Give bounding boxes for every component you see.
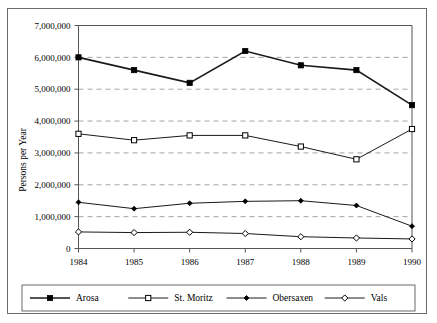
data-point-marker [298, 198, 303, 203]
series-st-moritz [76, 126, 415, 161]
x-tick-label: 1989 [347, 257, 366, 267]
data-point-marker [409, 126, 414, 131]
data-point-marker [131, 138, 136, 143]
data-point-marker [187, 201, 192, 206]
plot-gridlines [79, 26, 413, 217]
chart-figure: 01,000,0002,000,0003,000,0004,000,0005,0… [0, 0, 437, 323]
legend: ArosaSt. MoritzObersaxenVals [22, 285, 415, 311]
data-point-marker [409, 236, 415, 242]
data-point-marker [132, 206, 137, 211]
y-tick-label: 6,000,000 [35, 53, 72, 63]
data-point-marker [76, 131, 81, 136]
y-tick-label: 3,000,000 [35, 148, 72, 158]
line-chart: 01,000,0002,000,0003,000,0004,000,0005,0… [0, 0, 437, 323]
data-point-marker [354, 157, 359, 162]
data-point-marker [243, 48, 248, 53]
data-point-marker [243, 199, 248, 204]
y-tick-label: 1,000,000 [35, 212, 72, 222]
data-series-group [75, 48, 415, 242]
data-point-marker [354, 203, 359, 208]
series-obersaxen [76, 198, 415, 228]
legend-label: Vals [371, 293, 388, 303]
series-line [79, 201, 413, 226]
y-axis-title: Persons per Year [18, 127, 28, 191]
data-point-marker [242, 230, 248, 236]
x-axis-ticks [79, 249, 413, 253]
data-point-marker [76, 200, 81, 205]
x-tick-label: 1984 [70, 257, 89, 267]
x-tick-label: 1987 [236, 257, 255, 267]
series-line [79, 51, 413, 105]
data-point-marker [298, 144, 303, 149]
data-point-marker [76, 55, 81, 60]
x-axis-tick-labels: 1984198519861987198819891990 [70, 257, 422, 267]
data-point-marker [354, 68, 359, 73]
y-tick-label: 0 [66, 244, 71, 254]
x-tick-label: 1985 [125, 257, 144, 267]
legend-label: St. Moritz [174, 293, 213, 303]
data-point-marker [410, 224, 415, 229]
series-vals [75, 229, 415, 242]
data-point-marker [298, 234, 304, 240]
data-point-marker [75, 229, 81, 235]
y-axis-tick-labels: 01,000,0002,000,0003,000,0004,000,0005,0… [35, 21, 72, 254]
y-tick-label: 2,000,000 [35, 180, 72, 190]
data-point-marker [187, 133, 192, 138]
legend-label: Arosa [76, 293, 99, 303]
data-point-marker [243, 133, 248, 138]
data-point-marker [187, 80, 192, 85]
y-tick-label: 7,000,000 [35, 21, 72, 31]
data-point-marker [146, 295, 151, 300]
data-point-marker [47, 295, 52, 300]
x-tick-label: 1986 [181, 257, 200, 267]
data-point-marker [131, 68, 136, 73]
data-point-marker [131, 229, 137, 235]
data-point-marker [187, 229, 193, 235]
y-tick-label: 5,000,000 [35, 84, 72, 94]
x-tick-label: 1988 [292, 257, 311, 267]
legend-label: Obersaxen [273, 293, 314, 303]
x-tick-label: 1990 [403, 257, 422, 267]
y-tick-label: 4,000,000 [35, 116, 72, 126]
data-point-marker [353, 235, 359, 241]
data-point-marker [298, 63, 303, 68]
data-point-marker [409, 103, 414, 108]
